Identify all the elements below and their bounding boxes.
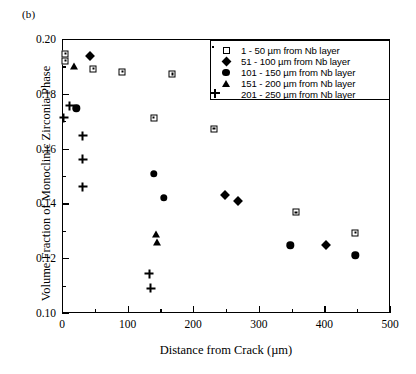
data-point xyxy=(211,125,218,132)
y-tick-minor xyxy=(62,66,66,67)
legend-marker-icon xyxy=(211,56,241,67)
x-tick-major xyxy=(390,306,391,313)
x-tick-major xyxy=(128,306,129,313)
marker-glyph xyxy=(221,57,231,67)
x-tick-minor xyxy=(292,309,293,313)
marker-glyph xyxy=(222,69,229,76)
x-tick-major xyxy=(193,306,194,313)
y-tick-major xyxy=(62,149,69,150)
legend-marker-icon xyxy=(211,78,241,89)
legend-marker-icon xyxy=(211,67,241,78)
data-point xyxy=(145,269,154,278)
marker-glyph xyxy=(222,90,231,99)
legend-item: 1 - 50 µm from Nb layer xyxy=(211,45,389,56)
marker-glyph xyxy=(222,80,230,87)
data-point xyxy=(78,155,87,164)
data-point xyxy=(150,114,157,121)
data-point xyxy=(119,68,126,75)
y-tick-major xyxy=(62,258,69,259)
figure-panel-b: (b) 01002003004005000.100.120.140.160.18… xyxy=(0,0,416,374)
y-tick-major xyxy=(62,313,69,314)
x-axis-title: Distance from Crack (µm) xyxy=(62,343,390,358)
x-tick-label: 200 xyxy=(185,318,202,330)
legend-item: 51 - 100 µm from Nb layer xyxy=(211,56,389,67)
legend-marker-icon xyxy=(211,45,241,56)
x-tick-label: 400 xyxy=(316,318,333,330)
data-point xyxy=(352,229,359,236)
y-tick-major xyxy=(62,94,69,95)
x-tick-major xyxy=(62,306,63,313)
legend-item: 101 - 150 µm from Nb layer xyxy=(211,67,389,78)
legend-label: 1 - 50 µm from Nb layer xyxy=(241,45,340,56)
y-axis-title: Volume Fraction of Monoclinic Zirconia P… xyxy=(39,34,54,334)
x-tick-major xyxy=(324,306,325,313)
legend-item: 201 - 250 µm from Nb layer xyxy=(211,89,389,100)
x-tick-minor xyxy=(160,309,161,313)
data-point xyxy=(146,284,155,293)
y-tick-minor xyxy=(62,231,66,232)
data-point xyxy=(62,57,69,64)
y-tick-minor xyxy=(62,176,66,177)
data-point xyxy=(62,50,69,57)
data-point xyxy=(78,182,87,191)
legend-label: 201 - 250 µm from Nb layer xyxy=(241,89,355,100)
data-point xyxy=(169,71,176,78)
data-point xyxy=(59,113,68,122)
chart-legend: 1 - 50 µm from Nb layer51 - 100 µm from … xyxy=(210,40,390,100)
y-tick-minor xyxy=(62,286,66,287)
panel-label: (b) xyxy=(22,8,35,20)
data-point xyxy=(293,209,300,216)
legend-label: 151 - 200 µm from Nb layer xyxy=(241,78,355,89)
x-tick-label: 500 xyxy=(381,318,398,330)
x-tick-major xyxy=(259,306,260,313)
x-tick-label: 100 xyxy=(119,318,136,330)
legend-item: 151 - 200 µm from Nb layer xyxy=(211,78,389,89)
y-tick-major xyxy=(62,39,69,40)
x-tick-minor xyxy=(357,309,358,313)
marker-glyph xyxy=(223,47,230,54)
data-point xyxy=(78,131,87,140)
legend-label: 51 - 100 µm from Nb layer xyxy=(241,56,350,67)
data-point xyxy=(65,101,74,110)
x-tick-label: 0 xyxy=(59,318,65,330)
data-point xyxy=(153,239,161,246)
x-tick-label: 300 xyxy=(250,318,267,330)
legend-marker-icon xyxy=(211,89,241,100)
data-point xyxy=(90,65,97,72)
data-point xyxy=(70,63,78,70)
y-tick-major xyxy=(62,203,69,204)
legend-label: 101 - 150 µm from Nb layer xyxy=(241,67,355,78)
data-point xyxy=(152,231,160,238)
x-tick-minor xyxy=(95,309,96,313)
x-tick-minor xyxy=(226,309,227,313)
